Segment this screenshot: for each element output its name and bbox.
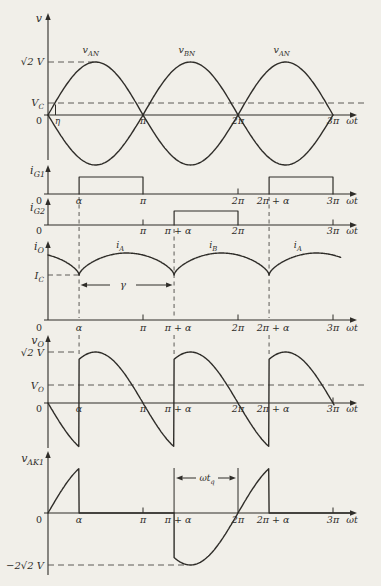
waveform-figure: vωt0ηπ2π3π√2 VVCvANvBNvANiG1ωt0απ2π2π + … [0, 0, 381, 586]
label-main: ωt [346, 195, 358, 206]
label-main: 3π [327, 322, 340, 333]
tick-label: 2π [231, 225, 245, 236]
label-main: ωt [346, 225, 358, 236]
label-main: η [55, 116, 61, 126]
tick-label-zero: 0 [36, 514, 42, 525]
sqrt2V-level-label: √2 V [21, 56, 46, 67]
label-main: −2√2 V [6, 560, 46, 571]
tick-label: π [139, 322, 147, 333]
label-main: π [139, 514, 147, 525]
label-sub: O [38, 246, 45, 255]
label-main: 0 [36, 225, 42, 236]
tick-label: 3π [327, 514, 340, 525]
tick-label: π + α [164, 403, 192, 414]
tick-label: 2π + α [256, 322, 290, 333]
label-main: 2π [231, 322, 245, 333]
gamma-label: γ [120, 279, 126, 290]
label-main: 2π [231, 195, 245, 206]
label-main: α [76, 514, 83, 525]
label-main: ωt [346, 115, 358, 126]
label-main: 2π [231, 514, 245, 525]
label-main: 0 [36, 115, 42, 126]
tick-label: π + α [164, 514, 192, 525]
tick-label-zero: 0 [36, 322, 42, 333]
label-sub: AN [87, 50, 100, 58]
label-sub: A [296, 245, 302, 253]
label-main: 3π [327, 514, 340, 525]
label-main: 2π + α [256, 514, 290, 525]
label-main: α [76, 322, 83, 333]
tick-label: α [76, 195, 83, 206]
label-main: 3π [327, 115, 340, 126]
label-main: π [139, 322, 147, 333]
label-main: γ [120, 279, 126, 290]
label-main: 2π + α [256, 195, 290, 206]
tick-label: 2π [231, 322, 245, 333]
label-sub: C [39, 275, 45, 284]
y-axis-label: v [36, 12, 43, 25]
tick-label: 2π + α [256, 403, 290, 414]
label-main: ωt [346, 514, 358, 525]
label-main: π + α [164, 322, 192, 333]
label-main: 3π [327, 195, 340, 206]
tick-label: 3π [327, 115, 340, 126]
label-sub: AN [278, 50, 291, 58]
tick-label: 3π [327, 225, 340, 236]
x-axis-unit-label: ωt [346, 195, 358, 206]
label-main: π + α [164, 514, 192, 525]
tick-label-zero: 0 [36, 403, 42, 414]
label-sub: BN [183, 50, 196, 58]
tick-label: 2π [231, 195, 245, 206]
label-main: 0 [36, 195, 42, 206]
label-sub: C [39, 102, 45, 111]
tick-label: π [139, 514, 147, 525]
tick-label: α [76, 514, 83, 525]
label-main: π + α [164, 403, 192, 414]
tick-label-zero: 0 [36, 225, 42, 236]
label-main: 0 [36, 403, 42, 414]
label-main: α [76, 195, 83, 206]
label-main: 2π + α [256, 403, 290, 414]
tick-label: π + α [164, 225, 192, 236]
tick-label: 2π + α [256, 195, 290, 206]
label-sub: G1 [34, 170, 45, 179]
label-sub: q [210, 478, 214, 486]
label-main: √2 V [21, 56, 46, 67]
x-axis-unit-label: ωt [346, 322, 358, 333]
label-main: √2 V [21, 347, 46, 358]
label-main: 2π [231, 225, 245, 236]
label-main: ωt [346, 322, 358, 333]
x-axis-unit-label: ωt [346, 514, 358, 525]
label-main: π [139, 225, 147, 236]
label-sub: G2 [34, 207, 45, 216]
x-axis-unit-label: ωt [346, 403, 358, 414]
sqrt2V-level-label: √2 V [21, 347, 46, 358]
tick-label: 2π [231, 514, 245, 525]
tick-label: π [139, 225, 147, 236]
label-sub: B [211, 245, 217, 253]
minus2sqrt2V-level-label: −2√2 V [6, 560, 46, 571]
tick-label: π [139, 195, 147, 206]
x-axis-unit-label: ωt [346, 225, 358, 236]
label-main: 0 [36, 514, 42, 525]
label-main: π [139, 195, 147, 206]
label-main: π + α [164, 225, 192, 236]
label-sub: O [38, 385, 44, 394]
tick-label-eta: η [55, 116, 61, 126]
label-main: 0 [36, 322, 42, 333]
label-main: ωt [346, 403, 358, 414]
label-sub: AK1 [26, 458, 44, 467]
label-main: 2π + α [256, 322, 290, 333]
label-main: v [36, 12, 43, 25]
label-sub: A [118, 245, 124, 253]
tick-label: 3π [327, 195, 340, 206]
tick-label-zero: 0 [36, 195, 42, 206]
tick-label: 3π [327, 322, 340, 333]
tick-label: α [76, 322, 83, 333]
label-main: ωt [199, 473, 210, 483]
tick-label: 2π + α [256, 514, 290, 525]
tick-label: π + α [164, 322, 192, 333]
label-main: 3π [327, 225, 340, 236]
x-axis-unit-label: ωt [346, 115, 358, 126]
rectifier-waveforms-svg: vωt0ηπ2π3π√2 VVCvANvBNvANiG1ωt0απ2π2π + … [0, 0, 381, 586]
